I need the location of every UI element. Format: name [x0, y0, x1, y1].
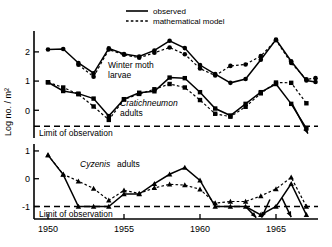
data-point-lower-panel-0-9: [182, 165, 187, 170]
data-point-upper-panel-1-3: [122, 53, 127, 58]
data-point-upper-panel-0-13: [243, 77, 248, 82]
data-point-upper-panel-1-15: [304, 77, 309, 82]
data-point-upper-panel-3-2: [76, 92, 80, 96]
data-point-upper-panel-2-9: [183, 76, 187, 80]
data-point-upper-panel-1-2: [107, 47, 112, 52]
data-point-lower-panel-1-5: [121, 188, 126, 193]
x-tick-label-1960: 1960: [190, 224, 210, 234]
annotation-winter-moth-larvae-line2: larvae: [108, 70, 131, 80]
data-point-upper-panel-1-1: [91, 74, 96, 79]
limit-of-observation-label-lower-panel: Limit of observation: [39, 209, 113, 219]
data-point-upper-panel-1-16: [313, 76, 318, 81]
data-point-upper-panel-1-5: [152, 50, 157, 55]
data-point-upper-panel-3-16: [289, 81, 293, 85]
data-point-upper-panel-0-0: [46, 47, 51, 52]
legend-label-observed: observed: [153, 7, 186, 16]
series-line-upper-panel-0: [48, 40, 316, 83]
data-point-upper-panel-1-6: [167, 45, 172, 50]
data-point-upper-panel-3-1: [61, 85, 65, 89]
y-tick-label-lower-panel--1: -1: [22, 202, 30, 212]
data-point-lower-panel-1-3: [91, 186, 96, 191]
data-point-upper-panel-3-4: [107, 118, 111, 122]
data-point-upper-panel-0-12: [228, 81, 233, 86]
data-point-upper-panel-3-14: [259, 91, 263, 95]
data-point-upper-panel-0-9: [183, 46, 188, 51]
x-tick-label-1965: 1965: [266, 224, 286, 234]
data-point-upper-panel-1-0: [76, 62, 81, 67]
annotation-cyzenis-adults-name: Cyzenis: [80, 159, 111, 169]
y-tick-label-upper-panel-1: 1: [25, 76, 30, 86]
data-point-upper-panel-1-10: [228, 64, 233, 69]
data-point-upper-panel-0-1: [61, 47, 66, 52]
data-point-upper-panel-2-10: [198, 90, 202, 94]
data-point-upper-panel-3-10: [198, 98, 202, 102]
annotation-winter-moth-larvae-line1: Winter moth: [108, 60, 154, 70]
data-point-upper-panel-2-8: [167, 75, 171, 79]
data-point-upper-panel-3-15: [274, 80, 278, 84]
data-point-lower-panel-1-14: [258, 193, 263, 198]
y-tick-label-lower-panel-1: 1: [25, 146, 30, 156]
data-point-upper-panel-2-11: [213, 106, 217, 110]
limit-of-observation-label-upper-panel: Limit of observation: [39, 128, 113, 138]
x-tick-label-1950: 1950: [38, 224, 58, 234]
data-point-upper-panel-2-3: [91, 96, 95, 100]
data-point-upper-panel-1-12: [259, 54, 264, 59]
data-point-upper-panel-0-8: [167, 39, 172, 44]
data-point-upper-panel-1-14: [289, 61, 294, 66]
y-tick-label-lower-panel-0: 0: [25, 174, 30, 184]
data-point-upper-panel-1-13: [274, 38, 279, 43]
data-point-upper-panel-1-9: [213, 73, 218, 78]
data-point-upper-panel-3-8: [167, 82, 171, 86]
data-point-upper-panel-3-6: [137, 92, 141, 96]
data-point-upper-panel-1-11: [243, 62, 248, 67]
annotation-cratichneumon-adults-line2: adults: [120, 108, 143, 118]
data-point-upper-panel-3-17: [304, 101, 308, 105]
annotation-cyzenis-adults-suffix: adults: [117, 159, 140, 169]
data-point-upper-panel-2-4: [107, 114, 111, 118]
x-tick-label-1955: 1955: [114, 224, 134, 234]
data-point-upper-panel-3-12: [228, 114, 232, 118]
annotation-cratichneumon-adults-line1: Cratichneumon: [120, 98, 178, 108]
data-point-upper-panel-3-3: [91, 104, 95, 108]
log-density-time-series-chart: 012-1011950195519601965Log no. / m²Limit…: [0, 0, 332, 247]
data-point-lower-panel-1-16: [289, 175, 294, 180]
data-point-upper-panel-3-9: [183, 85, 187, 89]
data-point-upper-panel-3-13: [243, 105, 247, 109]
data-point-upper-panel-3-11: [213, 112, 217, 116]
figure-container: 012-1011950195519601965Log no. / m²Limit…: [0, 0, 332, 247]
y-tick-label-upper-panel-0: 0: [25, 106, 30, 116]
data-point-upper-panel-1-8: [198, 66, 203, 71]
data-point-upper-panel-3-0: [46, 80, 50, 84]
data-point-lower-panel-0-16: [289, 181, 294, 186]
data-point-upper-panel-1-7: [183, 52, 188, 57]
y-axis-label: Log no. / m²: [3, 88, 13, 136]
y-tick-label-upper-panel-2: 2: [25, 47, 30, 57]
legend-label-mathematical-model: mathematical model: [153, 17, 225, 26]
data-point-lower-panel-1-10: [197, 186, 202, 191]
data-point-lower-panel-1-0: [45, 152, 50, 157]
data-point-lower-panel-0-17: [304, 212, 309, 217]
data-point-upper-panel-3-7: [152, 87, 156, 91]
